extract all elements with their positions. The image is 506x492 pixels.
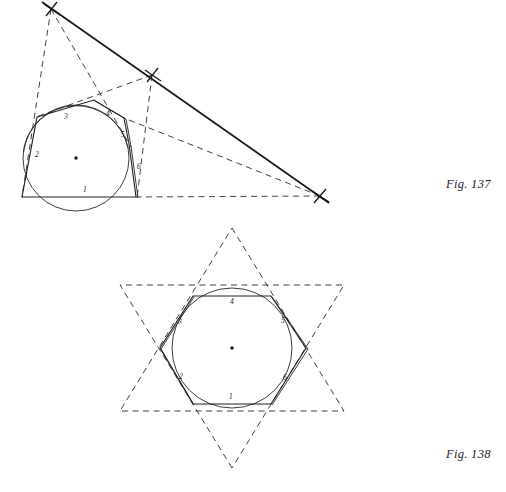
fig137-side-label-5: 5 (121, 130, 125, 139)
fig137-center-dot (74, 156, 77, 159)
fig137-side-label-2: 2 (35, 150, 39, 159)
fig138-side-label-2: 2 (179, 372, 183, 381)
fig138-side-label-4: 4 (230, 297, 234, 306)
fig137-dashed-ray-mid-to-E (137, 75, 152, 198)
fig138-hexagon (160, 296, 306, 404)
fig137-side-label-4: 4 (106, 109, 110, 118)
fig137-hexagon-overdraw (95, 101, 138, 198)
fig138-side-label-5: 5 (281, 316, 285, 325)
fig138-center-dot (230, 346, 233, 349)
fig138-star-triangle-down (120, 285, 344, 468)
fig138-side-label-1: 1 (229, 392, 233, 401)
fig137-dashed-ray-right-to-C (124, 118, 320, 196)
geometry-plate: .solid-thin { fill:none; stroke:#2a2624;… (0, 0, 506, 492)
fig138-side-label-6: 6 (283, 373, 287, 382)
fig137-dashed-ray-right-to-F (133, 196, 320, 197)
fig137-side-label-1: 1 (83, 185, 87, 194)
figure-138-caption: Fig. 138 (446, 447, 491, 462)
figure-137: 1 2 3 4 5 6 (22, 2, 329, 211)
fig138-side-label-3: 3 (177, 317, 182, 326)
figure-137-caption: Fig. 137 (446, 177, 491, 192)
fig137-dashed-ray-ul-to-F (22, 9, 51, 197)
figure-138: 1 2 3 4 5 6 (120, 228, 344, 468)
fig138-star-triangle-up (120, 228, 344, 411)
fig137-side-label-3: 3 (63, 112, 68, 121)
fig137-side-label-6: 6 (137, 162, 141, 171)
fig137-circle-overdraw (24, 106, 129, 152)
